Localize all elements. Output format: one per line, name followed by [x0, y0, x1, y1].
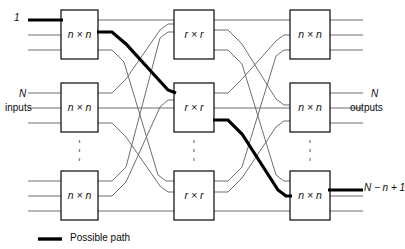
- label-highlighted-output: N − n + 1: [364, 182, 405, 193]
- label-first-input: 1: [14, 12, 20, 23]
- link-b3-c1: [214, 50, 290, 181]
- box-label-stage3-row3: n × n: [298, 189, 322, 201]
- label-inputs-text: inputs: [5, 102, 32, 113]
- legend-label-possible-path: Possible path: [70, 232, 130, 243]
- link-a8-b2b: [98, 100, 174, 196]
- link-a3-b3-helper: [98, 50, 162, 181]
- ellipsis-group: [80, 140, 311, 163]
- box-label-stage3-row2: n × n: [298, 101, 322, 113]
- label-outputs-text: outputs: [350, 102, 383, 113]
- box-label-stage1-row1: n × n: [68, 28, 92, 40]
- box-label-stage1-row2: n × n: [68, 101, 92, 113]
- link-a6-b3: [98, 123, 174, 192]
- box-label-stage3-row1: n × n: [298, 28, 322, 40]
- link-a3-b3: [98, 50, 174, 181]
- link-b2-c1: [214, 35, 290, 93]
- label-inputs-n: N: [19, 88, 26, 99]
- link-b1-c3: [214, 50, 290, 181]
- box-label-stage2-row1: r × r: [185, 28, 204, 40]
- box-label-stage2-row2: r × r: [185, 101, 204, 113]
- box-label-stage2-row3: r × r: [185, 189, 204, 201]
- label-outputs-n: N: [371, 88, 378, 99]
- box-label-stage1-row3: n × n: [68, 189, 92, 201]
- path-segment-stage1-to-stage2[interactable]: [97, 32, 176, 93]
